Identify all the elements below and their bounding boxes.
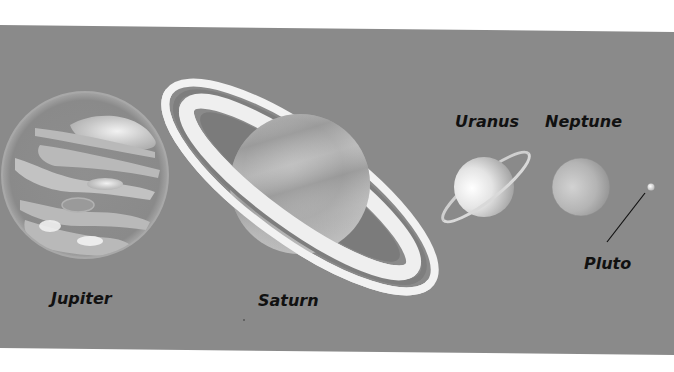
neptune-label: Neptune [545, 114, 622, 130]
jupiter-label: Jupiter [51, 291, 112, 307]
planets-artwork [0, 0, 674, 372]
saturn-label: Saturn [258, 293, 319, 309]
pluto-label: Pluto [584, 256, 631, 272]
pluto-planet [648, 184, 655, 191]
solar-system-illustration: Jupiter Saturn Uranus Neptune Pluto [0, 0, 674, 372]
neptune-planet [552, 158, 610, 216]
jupiter-planet [2, 92, 168, 258]
uranus-label: Uranus [455, 114, 519, 130]
